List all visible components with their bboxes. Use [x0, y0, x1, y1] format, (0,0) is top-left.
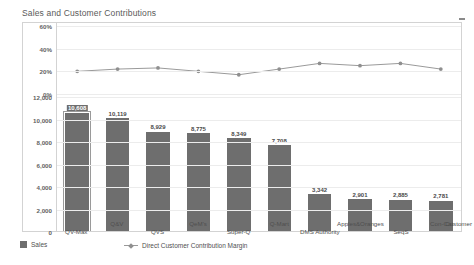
value-tick: 10,000	[33, 116, 52, 123]
margin-line-series	[57, 23, 461, 97]
gridline	[57, 165, 461, 166]
value-axis: 12,00010,0008,0006,0004,0002,0000	[23, 97, 57, 232]
gridline	[57, 97, 461, 98]
legend-item-margin[interactable]: Direct Customer Contribution Margin	[124, 242, 247, 249]
category-label: DMS Authority	[300, 220, 341, 240]
gridline	[57, 187, 461, 188]
category-label: Super-Q	[218, 220, 259, 240]
category-label: SeqS	[381, 220, 422, 240]
category-axis-labels: QV-MaxQ&VQVSQeM'sSuper-QQ-MartDMS Author…	[56, 220, 462, 240]
chart-title: Sales and Customer Contributions	[22, 8, 156, 18]
sales-swatch-icon	[20, 241, 27, 248]
category-label: Q-Mart	[259, 220, 300, 240]
sales-bar[interactable]: 7,708	[268, 145, 291, 232]
category-label: QVS	[137, 220, 178, 240]
sales-bar[interactable]: 8,929	[146, 132, 169, 232]
margin-data-point[interactable]	[318, 62, 322, 66]
bar-panel: 10,60810,1198,9298,7758,3497,7083,3422,9…	[57, 97, 461, 232]
sales-bar[interactable]: 8,349	[227, 138, 250, 232]
chart-widget: Sales and Customer Contributions 60%40%2…	[0, 0, 474, 265]
sales-bar[interactable]: 10,119	[106, 118, 129, 232]
legend-label-sales: Sales	[31, 241, 47, 248]
bar-value-label: 2,885	[393, 192, 408, 198]
value-tick: 8,000	[37, 139, 52, 146]
gridline	[57, 210, 461, 211]
percent-tick: 40%	[40, 45, 52, 52]
gridline	[57, 26, 461, 27]
legend-label-margin: Direct Customer Contribution Margin	[142, 242, 247, 249]
value-tick: 4,000	[37, 184, 52, 191]
legend-item-sales[interactable]: Sales	[20, 241, 47, 248]
margin-line-marker-icon	[124, 242, 138, 249]
category-label: QeM's	[178, 220, 219, 240]
percent-tick: 60%	[40, 23, 52, 30]
gridline	[57, 49, 461, 50]
sales-bar[interactable]: 8,775	[187, 133, 210, 232]
value-tick: 0	[49, 229, 52, 236]
bar-value-label: 8,775	[191, 126, 206, 132]
gridline	[57, 71, 461, 72]
value-tick: 2,000	[37, 206, 52, 213]
plot-frame: 60%40%20%0% 12,00010,0008,0006,0004,0002…	[22, 22, 462, 232]
legend: Sales Direct Customer Contribution Margi…	[20, 241, 474, 255]
bar-value-label: 2,901	[353, 192, 368, 198]
category-overflow-label: Customer	[445, 220, 472, 227]
margin-data-point[interactable]	[237, 73, 241, 77]
margin-data-point[interactable]	[358, 64, 362, 68]
margin-data-point[interactable]	[156, 66, 160, 70]
category-label: Apples&Oranges	[340, 220, 381, 240]
line-panel	[57, 23, 461, 97]
sales-bar[interactable]: 10,608	[65, 113, 88, 232]
gridline	[57, 120, 461, 121]
margin-data-point[interactable]	[399, 62, 403, 66]
bar-value-label: 8,929	[150, 124, 165, 130]
category-label: QV-Max	[56, 220, 97, 240]
gridline	[57, 94, 461, 95]
bar-value-label: 8,349	[231, 131, 246, 137]
category-label: Q&V	[97, 220, 138, 240]
gridline	[57, 142, 461, 143]
value-tick: 12,000	[33, 94, 52, 101]
bar-value-label: 10,608	[67, 105, 87, 111]
percent-axis: 60%40%20%0%	[23, 23, 57, 97]
margin-line	[77, 63, 441, 74]
percent-tick: 20%	[40, 68, 52, 75]
bar-value-label: 10,119	[109, 111, 127, 117]
value-tick: 6,000	[37, 161, 52, 168]
bar-value-label: 2,781	[433, 193, 448, 199]
